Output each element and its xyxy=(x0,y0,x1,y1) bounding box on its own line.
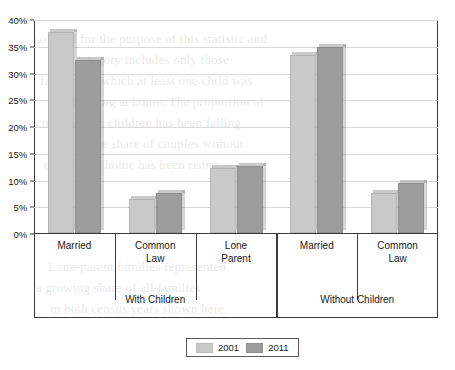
bar-lone-parent-2001[interactable] xyxy=(210,168,236,233)
grouped-bar-chart: 0%5%10%15%20%25%30%35%40% MarriedCommonL… xyxy=(0,0,455,370)
plot-area xyxy=(34,20,438,234)
bar-side-bevel xyxy=(343,44,346,230)
bar-face xyxy=(210,168,236,233)
bar-face xyxy=(156,193,182,233)
bar-married-2001[interactable] xyxy=(48,32,74,233)
bar-common-law-2001[interactable] xyxy=(129,199,155,233)
category-label-0: Married xyxy=(34,239,115,252)
bar-common-law-2011[interactable] xyxy=(398,183,424,233)
bar-married-2011[interactable] xyxy=(317,47,343,233)
category-label-line: Common xyxy=(357,239,438,252)
category-label-3: Married xyxy=(276,239,357,252)
legend-label-2011: 2011 xyxy=(268,342,288,353)
y-axis: 0%5%10%15%20%25%30%35%40% xyxy=(0,20,34,234)
bar-side-bevel xyxy=(101,57,104,230)
bar-face xyxy=(129,199,155,233)
y-tick-label: 25% xyxy=(8,95,27,106)
group-label-1: Without Children xyxy=(276,294,438,305)
y-tick-label: 5% xyxy=(13,202,27,213)
y-tick-label: 40% xyxy=(8,15,27,26)
legend-label-2001: 2001 xyxy=(218,342,239,353)
y-tick-label: 10% xyxy=(8,175,27,186)
category-axis: MarriedCommonLawLoneParentMarriedCommonL… xyxy=(34,234,438,318)
bar-lone-parent-2011[interactable] xyxy=(237,166,263,233)
category-label-2: LoneParent xyxy=(196,239,277,265)
bar-face xyxy=(75,60,101,233)
bar-face xyxy=(398,183,424,233)
legend-swatch-2001-icon xyxy=(196,343,213,353)
bar-face xyxy=(48,32,74,233)
gridline xyxy=(34,47,438,48)
category-label-line: Common xyxy=(115,239,196,252)
bar-side-bevel xyxy=(182,190,185,230)
category-label-line: Married xyxy=(276,239,357,252)
y-tick-label: 35% xyxy=(8,41,27,52)
bar-side-bevel xyxy=(424,180,427,230)
bar-face xyxy=(371,193,397,233)
category-label-line: Parent xyxy=(196,252,277,265)
group-label-0: With Children xyxy=(34,294,276,305)
y-tick-label: 15% xyxy=(8,148,27,159)
gridline xyxy=(34,20,438,21)
category-label-1: CommonLaw xyxy=(115,239,196,265)
y-tick-label: 0% xyxy=(13,229,27,240)
legend-item-2011[interactable]: 2011 xyxy=(246,342,288,353)
legend-item-2001[interactable]: 2001 xyxy=(196,342,239,353)
bar-face xyxy=(237,166,263,233)
category-label-line: Law xyxy=(357,252,438,265)
legend-swatch-2011-icon xyxy=(246,343,263,353)
bar-face xyxy=(290,55,316,233)
category-label-line: Law xyxy=(115,252,196,265)
bar-married-2001[interactable] xyxy=(290,55,316,233)
category-label-line: Married xyxy=(34,239,115,252)
bar-side-bevel xyxy=(263,163,266,230)
bar-face xyxy=(317,47,343,233)
category-label-line: Lone xyxy=(196,239,277,252)
chart-legend: 2001 2011 xyxy=(186,338,299,357)
bar-common-law-2011[interactable] xyxy=(156,193,182,233)
y-tick-label: 20% xyxy=(8,122,27,133)
y-tick-label: 30% xyxy=(8,68,27,79)
category-label-4: CommonLaw xyxy=(357,239,438,265)
bar-married-2011[interactable] xyxy=(75,60,101,233)
bar-common-law-2001[interactable] xyxy=(371,193,397,233)
